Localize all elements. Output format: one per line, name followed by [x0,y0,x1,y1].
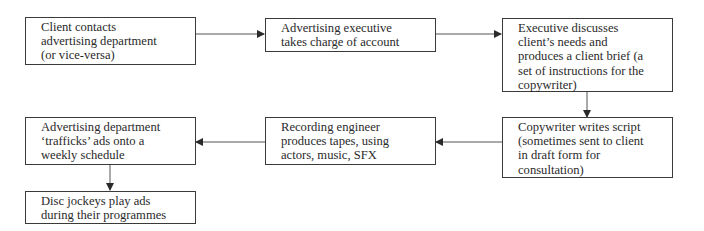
node-line: Advertising executive [281,21,427,35]
node-line: Advertising department [41,120,187,134]
node-line: client’s needs and [518,35,664,49]
node-line: Recording engineer [281,120,427,134]
node-copywriter: Copywriter writes script (sometimes sent… [502,117,673,178]
node-line: during their programmes [41,208,187,222]
node-executive-discusses: Executive discusses client’s needs and p… [502,18,673,92]
node-client-contacts: Client contacts advertising department (… [25,17,196,65]
node-advertising-executive: Advertising executive takes charge of ac… [265,18,436,52]
node-line: consultation) [518,163,664,177]
node-line: (sometimes sent to client [518,134,664,148]
node-line: advertising department [41,34,187,48]
node-line: weekly schedule [41,148,187,162]
node-line: Disc jockeys play ads [41,194,187,208]
node-line: takes charge of account [281,35,427,49]
node-line: in draft form for [518,148,664,162]
node-line: copywriter) [518,78,664,92]
node-line: Client contacts [41,20,187,34]
node-line: produces a client brief (a [518,49,664,63]
node-disc-jockeys: Disc jockeys play ads during their progr… [25,191,196,224]
node-line: produces tapes, using [281,134,427,148]
node-line: (or vice-versa) [41,48,187,62]
node-advertising-department-trafficks: Advertising department ‘trafficks’ ads o… [25,117,196,165]
node-line: set of instructions for the [518,64,664,78]
node-line: ‘trafficks’ ads onto a [41,134,187,148]
node-line: Copywriter writes script [518,120,664,134]
node-recording-engineer: Recording engineer produces tapes, using… [265,117,436,165]
node-line: Executive discusses [518,21,664,35]
node-line: actors, music, SFX [281,148,427,162]
